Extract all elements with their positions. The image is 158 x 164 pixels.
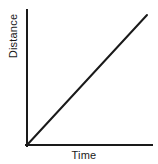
data-line-distance	[27, 15, 147, 145]
y-axis-label: Distance	[8, 0, 21, 106]
distance-time-graph-figure: Distance Time	[0, 0, 158, 164]
plot-area	[0, 0, 158, 164]
x-axis-label: Time	[26, 150, 142, 161]
